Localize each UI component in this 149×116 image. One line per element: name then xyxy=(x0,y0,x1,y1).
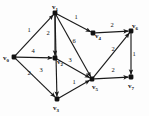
vertex-label-subscript: 4 xyxy=(99,36,102,41)
vertex-label-v0: v0 xyxy=(3,54,10,63)
edge-weight-label: 1 xyxy=(74,13,77,20)
vertex-label-v6: v6 xyxy=(132,22,139,31)
vertex-label-v7: v7 xyxy=(128,82,135,91)
edge-weight-label: 3 xyxy=(39,66,42,73)
graph-vertex-v0 xyxy=(12,55,17,60)
vertex-label-v3: v3 xyxy=(53,104,60,113)
edge-weight-label: 2 xyxy=(27,69,30,76)
edge-weight-label: 2 xyxy=(110,21,113,28)
edge-weight-label: 2 xyxy=(111,66,114,73)
vertex-label-v4: v4 xyxy=(95,32,102,41)
edge-weight-label: 2 xyxy=(46,29,49,36)
vertex-label-subscript: 3 xyxy=(57,108,60,113)
graph-vertex-v7 xyxy=(129,75,134,80)
graph-vertex-v3 xyxy=(55,97,60,102)
vertex-label-subscript: 1 xyxy=(56,7,59,12)
edges-group xyxy=(15,14,131,98)
vertex-label-v5: v5 xyxy=(92,83,99,92)
vertex-label-subscript: 0 xyxy=(7,58,10,63)
edge-weight-label: 4 xyxy=(31,47,35,54)
edge-weight-label: 3 xyxy=(68,56,71,63)
edge-weight-label: 1 xyxy=(132,50,135,57)
vertex-label-subscript: 7 xyxy=(132,86,135,91)
edge-weight-label: 2 xyxy=(111,45,114,52)
graph-edge xyxy=(16,59,56,98)
vertex-label-subscript: 6 xyxy=(136,26,139,31)
graph-edge xyxy=(56,15,91,77)
vertex-label-v2: v2 xyxy=(57,58,64,67)
graph-canvas: 1231642312221 v0v1v2v3v4v5v6v7 xyxy=(0,0,149,116)
edge-weights-group: 1231642312221 xyxy=(27,13,135,85)
edge-weight-label: 1 xyxy=(27,26,30,33)
weighted-graph-figure: 1231642312221 v0v1v2v3v4v5v6v7 xyxy=(0,0,149,116)
edge-weight-label: 6 xyxy=(72,37,76,44)
vertex-label-v1: v1 xyxy=(52,3,59,12)
graph-edge xyxy=(95,31,128,33)
graph-edge xyxy=(16,57,52,58)
graph-edge xyxy=(94,77,128,79)
graph-vertex-v5 xyxy=(90,77,95,82)
edge-weight-label: 1 xyxy=(72,78,75,85)
vertex-label-subscript: 5 xyxy=(96,87,99,92)
